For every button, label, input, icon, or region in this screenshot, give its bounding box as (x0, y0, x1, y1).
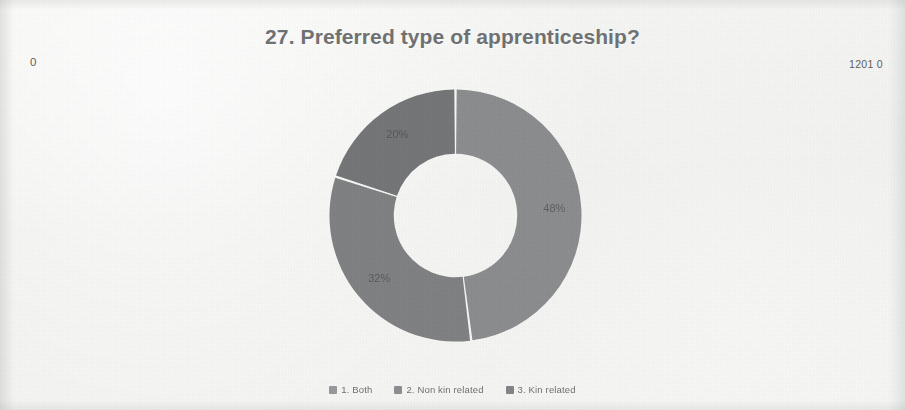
legend-swatch-1-icon (329, 386, 337, 394)
legend-label-3: 3. Kin related (518, 384, 576, 395)
legend-item-1[interactable]: 1. Both (329, 384, 372, 395)
page-title: 27. Preferred type of apprenticeship? (0, 25, 905, 49)
legend-swatch-2-icon (394, 386, 402, 394)
donut-slice-group (329, 90, 581, 342)
chart-legend: 1. Both 2. Non kin related 3. Kin relate… (0, 384, 905, 395)
corner-right-value: 1201 0 (849, 58, 883, 70)
slide-canvas: 27. Preferred type of apprenticeship? 0 … (0, 0, 905, 410)
donut-value-label-2: 32% (368, 272, 390, 284)
donut-slice-3[interactable] (336, 90, 455, 196)
donut-chart-svg: 48%32%20% (328, 88, 583, 343)
legend-swatch-3-icon (506, 386, 514, 394)
legend-label-1: 1. Both (341, 384, 372, 395)
legend-label-2: 2. Non kin related (406, 384, 483, 395)
donut-value-label-1: 48% (543, 202, 565, 214)
donut-slice-1[interactable] (456, 90, 581, 341)
legend-item-2[interactable]: 2. Non kin related (394, 384, 483, 395)
donut-value-label-3: 20% (386, 128, 408, 140)
corner-left-value: 0 (30, 56, 37, 68)
donut-slice-2[interactable] (329, 178, 470, 342)
donut-chart: 48%32%20% (328, 88, 583, 343)
legend-item-3[interactable]: 3. Kin related (506, 384, 576, 395)
